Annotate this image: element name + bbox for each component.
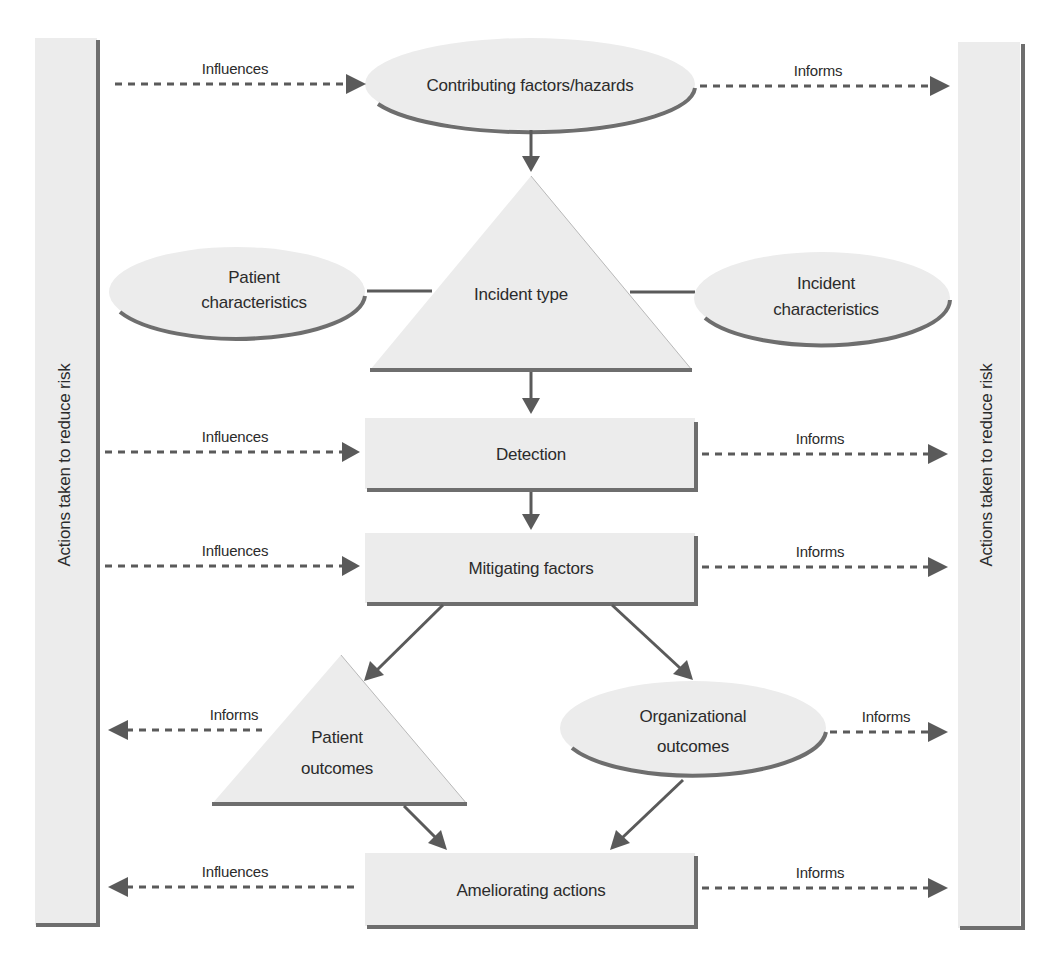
edge-detection-to-mitigating: [522, 492, 540, 530]
patient-characteristics-line1: Patient: [228, 268, 280, 287]
edge-org-outcomes-informs: Informs: [830, 708, 948, 742]
edge-mitigating-to-org-outcomes: [612, 605, 693, 680]
arrowhead-right-icon: [928, 444, 948, 464]
incident-triangle: [370, 176, 692, 370]
arrowhead-left-icon: [108, 720, 128, 740]
node-incident-type[interactable]: Incident type: [370, 176, 692, 370]
node-ameliorating-actions[interactable]: Ameliorating actions: [365, 853, 696, 927]
right-side-bar: Actions taken to reduce risk: [958, 42, 1023, 928]
edge-patient-outcomes-informs: Informs: [108, 706, 262, 740]
arrowhead-right-icon: [342, 442, 360, 462]
edge-label: Informs: [794, 62, 843, 79]
edge-label: Informs: [796, 543, 845, 560]
node-organizational-outcomes[interactable]: Organizational outcomes: [560, 681, 826, 776]
edge-mitigating-influences: Influences: [105, 542, 360, 576]
detection-label: Detection: [496, 445, 566, 464]
ameliorating-label: Ameliorating actions: [456, 881, 605, 900]
solid-line: [404, 806, 436, 838]
edge-mitigating-to-patient-outcomes: [364, 605, 443, 681]
incident-characteristics-line2: characteristics: [773, 300, 879, 319]
arrowhead-right-icon: [930, 76, 950, 96]
edge-incident-to-detection: [522, 372, 540, 414]
patient-outcomes-line2: outcomes: [301, 759, 373, 778]
arrowhead-down-icon: [522, 398, 540, 414]
incident-type-label: Incident type: [474, 285, 568, 304]
org-outcomes-line1: Organizational: [640, 707, 747, 726]
edge-contributing-informs: Informs: [700, 62, 950, 96]
edge-ameliorating-influences: Influences: [108, 863, 356, 897]
node-contributing-factors[interactable]: Contributing factors/hazards: [365, 38, 695, 132]
edge-label: Influences: [202, 428, 268, 445]
edge-contributing-influences: Influences: [115, 60, 366, 94]
solid-line: [612, 605, 680, 668]
mitigating-label: Mitigating factors: [469, 559, 594, 578]
node-detection[interactable]: Detection: [365, 418, 696, 490]
arrowhead-right-icon: [342, 556, 360, 576]
org-outcomes-line2: outcomes: [657, 737, 729, 756]
solid-line: [377, 605, 443, 670]
arrowhead-down-icon: [522, 156, 540, 172]
edge-mitigating-informs: Informs: [702, 543, 948, 577]
arrowhead-right-icon: [928, 557, 948, 577]
contributing-label: Contributing factors/hazards: [426, 76, 633, 95]
edge-detection-influences: Influences: [105, 428, 360, 462]
solid-line: [622, 780, 683, 838]
edge-label: Influences: [202, 60, 268, 77]
edge-label: Influences: [202, 542, 268, 559]
left-side-bar: Actions taken to reduce risk: [35, 38, 98, 925]
edge-label: Informs: [796, 864, 845, 881]
edge-contributing-to-incident: [522, 130, 540, 172]
node-incident-characteristics[interactable]: Incident characteristics: [694, 252, 950, 345]
edge-label: Informs: [862, 708, 911, 725]
edge-ameliorating-informs: Informs: [702, 864, 948, 898]
patient-outcomes-line1: Patient: [311, 728, 363, 747]
arrowhead-down-icon: [522, 514, 540, 530]
arrowhead-right-icon: [928, 878, 948, 898]
edge-detection-informs: Informs: [702, 430, 948, 464]
node-patient-characteristics[interactable]: Patient characteristics: [109, 247, 365, 339]
arrowhead-left-icon: [108, 877, 128, 897]
edge-org-outcomes-to-ameliorating: [610, 780, 683, 850]
arrowhead-right-icon: [346, 74, 366, 94]
patient-characteristics-ellipse: [109, 247, 365, 337]
incident-model-diagram: Actions taken to reduce risk Actions tak…: [0, 0, 1061, 977]
edge-label: Informs: [796, 430, 845, 447]
incident-characteristics-line1: Incident: [797, 274, 855, 293]
edge-label: Influences: [202, 863, 268, 880]
edge-label: Informs: [210, 706, 259, 723]
patient-characteristics-line2: characteristics: [201, 293, 307, 312]
left-bar-label: Actions taken to reduce risk: [55, 363, 74, 567]
arrowhead-right-icon: [928, 722, 948, 742]
node-patient-outcomes[interactable]: Patient outcomes: [212, 655, 467, 804]
node-mitigating-factors[interactable]: Mitigating factors: [365, 533, 696, 604]
edge-patient-outcomes-to-ameliorating: [404, 806, 447, 850]
right-bar-label: Actions taken to reduce risk: [977, 363, 996, 567]
